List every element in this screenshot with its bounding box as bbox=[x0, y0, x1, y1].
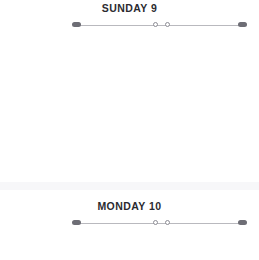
day-title-monday: MONDAY 10 bbox=[0, 200, 259, 213]
rail-end-cap-icon[interactable] bbox=[238, 220, 247, 225]
day-rail-monday[interactable] bbox=[0, 217, 259, 229]
day-title-sunday: SUNDAY 9 bbox=[0, 2, 259, 15]
rail-mid-dot-a-icon[interactable] bbox=[153, 220, 158, 225]
rail-line bbox=[73, 25, 246, 26]
day-block-monday: MONDAY 10 bbox=[0, 200, 259, 229]
day-block-sunday: SUNDAY 9 bbox=[0, 2, 259, 31]
rail-end-cap-icon[interactable] bbox=[238, 22, 247, 27]
rail-start-cap-icon[interactable] bbox=[72, 220, 81, 225]
rail-mid-dot-a-icon[interactable] bbox=[153, 22, 158, 27]
rail-start-cap-icon[interactable] bbox=[72, 22, 81, 27]
rail-line bbox=[73, 223, 246, 224]
day-timeline-root: SUNDAY 9 MONDAY 10 bbox=[0, 0, 259, 260]
day-rail-sunday[interactable] bbox=[0, 19, 259, 31]
rail-mid-dot-b-icon[interactable] bbox=[165, 22, 170, 27]
rail-mid-dot-b-icon[interactable] bbox=[165, 220, 170, 225]
section-divider bbox=[0, 182, 259, 190]
